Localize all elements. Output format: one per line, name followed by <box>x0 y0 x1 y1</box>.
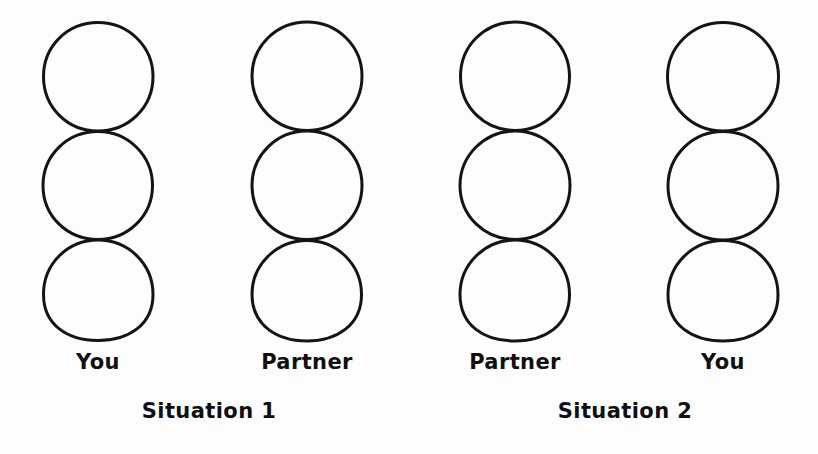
circle-stack-svg <box>663 0 783 345</box>
circle-bottom <box>44 240 154 341</box>
person-label-situation2-partner: Partner <box>455 350 575 374</box>
circle-middle <box>252 131 362 240</box>
circle-stack-situation2-you <box>663 0 783 345</box>
person-label-situation1-partner: Partner <box>247 350 367 374</box>
person-label-situation1-you: You <box>38 350 158 374</box>
circle-stack-svg <box>455 0 575 345</box>
circle-stack-situation1-you <box>38 0 158 345</box>
circle-stack-svg <box>38 0 158 345</box>
circle-stack-situation2-partner <box>455 0 575 345</box>
circle-top <box>461 22 570 131</box>
circle-bottom <box>460 240 570 341</box>
circle-bottom <box>252 241 362 342</box>
circle-stack-situation1-partner <box>247 0 367 345</box>
situation-label-2: Situation 2 <box>525 399 725 423</box>
person-label-situation2-you: You <box>663 350 783 374</box>
circle-top <box>44 23 154 132</box>
circle-top <box>668 23 779 132</box>
circle-top <box>252 22 362 131</box>
circle-stack-svg <box>247 0 367 345</box>
situation-comparison-figure: You Partner Partner You Situation 1 Situ… <box>0 0 818 454</box>
circle-bottom <box>668 241 778 342</box>
circle-middle <box>668 132 778 241</box>
circle-middle <box>43 132 153 240</box>
situation-label-1: Situation 1 <box>109 399 309 423</box>
circle-middle <box>460 131 570 240</box>
